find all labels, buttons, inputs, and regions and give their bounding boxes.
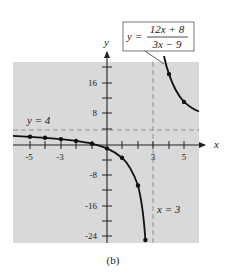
equation-box: y = 12x + 8 3x − 9 [123, 22, 194, 51]
horizontal-asymptote-label: y = 4 [26, 114, 51, 126]
y-tick-label: 8 [93, 108, 98, 118]
y-axis-label: y [103, 36, 109, 48]
equation-numerator: 12x + 8 [150, 23, 185, 35]
equation-denominator: 3x − 9 [152, 38, 182, 50]
y-tick-label: -16 [85, 201, 97, 211]
y-tick-label: -8 [90, 170, 98, 180]
plot-panel [13, 62, 199, 243]
x-tick-label: -5 [25, 152, 33, 162]
rational-function-graph: -5 -3 3 5 16 8 -8 -16 -24 x y y = 4 x = … [0, 0, 227, 280]
vertical-asymptote-label: x = 3 [156, 203, 181, 215]
figure-caption: (b) [107, 254, 120, 267]
equation-lhs: y = [126, 30, 142, 42]
x-tick-label: 5 [182, 152, 187, 162]
y-tick-label: 16 [88, 78, 98, 88]
x-tick-label: -3 [56, 152, 64, 162]
x-axis-label: x [213, 138, 219, 150]
y-tick-label: -24 [85, 231, 97, 241]
x-tick-label: 3 [151, 152, 156, 162]
